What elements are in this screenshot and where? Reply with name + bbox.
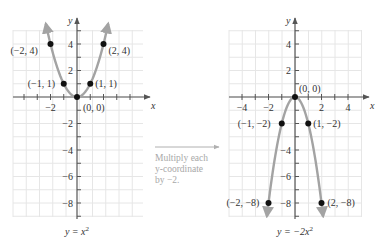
y-tick-label: 4: [286, 39, 291, 50]
data-point: [279, 121, 285, 127]
y-tick-label: −6: [280, 171, 291, 182]
data-point: [266, 200, 272, 206]
data-point: [74, 94, 80, 100]
transform-note-line: by −2.: [155, 175, 240, 186]
x-tick-label: −2: [45, 102, 56, 113]
point-label: (−1, 1): [28, 78, 55, 90]
equation-caption: y = x2: [64, 225, 90, 237]
point-label: (2, 4): [109, 45, 131, 57]
y-tick-label: −6: [62, 171, 73, 182]
point-label: (2, −8): [328, 197, 355, 209]
transform-note-line: Multiply each: [155, 153, 240, 164]
graph-panel-2: xy−4−22442−4−6−8(−2, −8)(−1, −2)(0, 0)(1…: [227, 15, 376, 237]
data-point: [101, 41, 107, 47]
equation-caption: y = −2x2: [276, 225, 313, 237]
point-label: (1, −2): [313, 118, 340, 130]
y-tick-label: −4: [280, 145, 291, 156]
equation-exponent: 2: [86, 225, 90, 233]
curve-right-branch: [295, 97, 323, 216]
y-tick-label: 4: [68, 39, 73, 50]
equation-exponent: 2: [309, 225, 313, 233]
y-axis-label: y: [285, 15, 291, 26]
y-tick-label: 2: [286, 65, 291, 76]
chart-canvas: xy−242−2−4−6−8(−2, 4)(−1, 1)(0, 0)(1, 1)…: [0, 0, 388, 241]
y-tick-label: −8: [62, 198, 73, 209]
y-tick-label: −8: [280, 198, 291, 209]
transform-note-line: y-coordinate: [155, 164, 240, 175]
data-point: [61, 81, 67, 87]
point-label: (−2, 4): [11, 45, 38, 57]
equation-lhs: y = −2: [276, 226, 305, 237]
data-point: [48, 41, 54, 47]
x-axis-label: x: [369, 100, 375, 111]
y-tick-label: −2: [62, 118, 73, 129]
graph-panel-1: xy−242−2−4−6−8(−2, 4)(−1, 1)(0, 0)(1, 1)…: [11, 15, 157, 237]
x-axis-label: x: [150, 100, 156, 111]
x-tick-label: 2: [319, 102, 324, 113]
data-point: [319, 200, 325, 206]
x-tick-label: 4: [346, 102, 351, 113]
x-tick-label: −4: [237, 102, 248, 113]
y-tick-label: 2: [68, 65, 73, 76]
data-point: [305, 121, 311, 127]
point-label: (0, 0): [299, 83, 321, 95]
point-label: (0, 0): [83, 102, 105, 114]
point-label: (−1, −2): [238, 118, 271, 130]
data-point: [292, 94, 298, 100]
transform-note: Multiply each y-coordinate by −2.: [155, 153, 240, 186]
y-axis-label: y: [67, 15, 73, 26]
equation-lhs: y =: [64, 226, 81, 237]
point-label: (−2, −8): [227, 197, 260, 209]
point-label: (1, 1): [95, 78, 117, 90]
x-tick-label: −2: [263, 102, 274, 113]
data-point: [87, 81, 93, 87]
y-tick-label: −4: [62, 145, 73, 156]
